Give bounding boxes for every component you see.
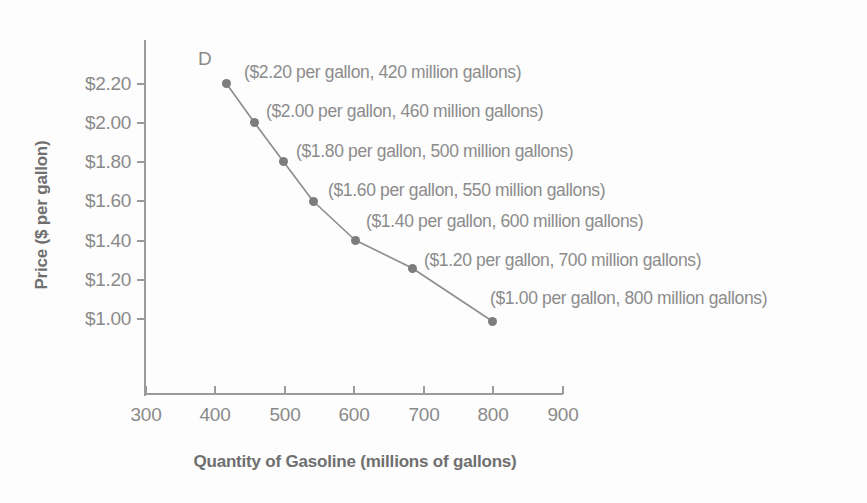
y-axis-line — [144, 40, 146, 396]
y-axis-tick-label: $1.20 — [59, 269, 131, 291]
point-annotation: ($1.80 per gallon, 500 million gallons) — [296, 141, 573, 162]
y-axis-tick-labels: $2.20 $2.00 $1.80 $1.60 $1.40 $1.20 $1.0… — [55, 0, 131, 503]
point-annotation: ($1.40 per gallon, 600 million gallons) — [366, 211, 643, 232]
y-axis-tick — [137, 279, 145, 281]
x-axis-tick-label: 600 — [324, 404, 384, 426]
x-axis-tick-label: 400 — [185, 404, 245, 426]
data-point — [222, 79, 231, 88]
x-axis-tick-label: 700 — [394, 404, 454, 426]
data-point — [250, 118, 259, 127]
x-axis-tick-label: 300 — [116, 404, 176, 426]
x-axis-tick-label: 900 — [533, 404, 593, 426]
data-point — [408, 264, 417, 273]
x-axis-tick — [562, 386, 564, 394]
y-axis-tick — [137, 161, 145, 163]
y-axis-tick — [137, 122, 145, 124]
x-axis-tick-label: 500 — [255, 404, 315, 426]
x-axis-tick — [284, 386, 286, 394]
y-axis-tick-label: $1.80 — [59, 151, 131, 173]
x-axis-tick-label: 800 — [463, 404, 523, 426]
point-annotation: ($1.20 per gallon, 700 million gallons) — [424, 250, 701, 271]
x-axis-tick — [353, 386, 355, 394]
x-axis-title: Quantity of Gasoline (millions of gallon… — [115, 452, 595, 472]
x-axis-tick — [145, 386, 147, 394]
point-annotation: ($2.20 per gallon, 420 million gallons) — [244, 62, 521, 83]
data-point — [309, 197, 318, 206]
y-axis-title: Price ($ per gallon) — [32, 95, 52, 335]
y-axis-tick — [137, 83, 145, 85]
point-annotation: ($1.00 per gallon, 800 million gallons) — [490, 288, 767, 309]
y-axis-tick-label: $1.00 — [59, 308, 131, 330]
x-axis-tick — [214, 386, 216, 394]
point-annotation: ($1.60 per gallon, 550 million gallons) — [328, 180, 605, 201]
chart-canvas: $2.20 $2.00 $1.80 $1.60 $1.40 $1.20 $1.0… — [0, 0, 867, 503]
y-axis-tick-label: $1.40 — [59, 230, 131, 252]
data-point — [488, 317, 497, 326]
data-point — [351, 236, 360, 245]
x-axis-tick — [423, 386, 425, 394]
y-axis-tick-label: $1.60 — [59, 190, 131, 212]
point-annotation: ($2.00 per gallon, 460 million gallons) — [266, 101, 543, 122]
y-axis-tick — [137, 240, 145, 242]
y-axis-tick-label: $2.00 — [59, 112, 131, 134]
data-point — [279, 157, 288, 166]
x-axis-tick — [492, 386, 494, 394]
demand-curve-label: D — [198, 48, 212, 70]
y-axis-tick-label: $2.20 — [59, 73, 131, 95]
y-axis-tick — [137, 200, 145, 202]
y-axis-tick — [137, 318, 145, 320]
